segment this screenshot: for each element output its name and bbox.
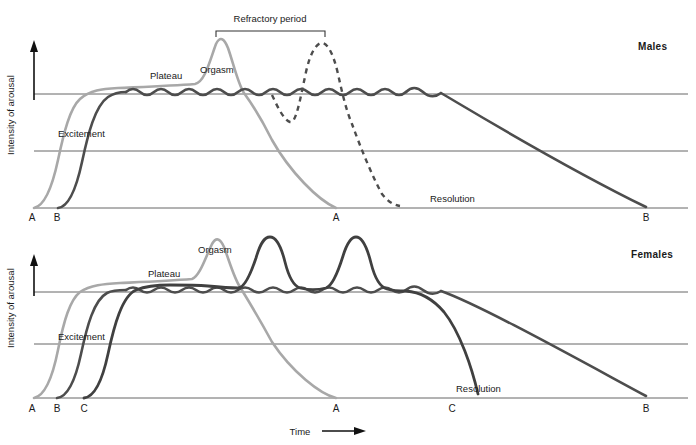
label-females-resolution: Resolution [456, 383, 501, 394]
panel-title-females: Females [631, 249, 673, 260]
panel-females: Intensity of arousal Females Plateau Org… [5, 237, 688, 437]
y-axis-title-males: Intensity of arousal [5, 75, 16, 155]
label-females-plateau: Plateau [148, 268, 180, 279]
x-tick-males-1: B [54, 212, 61, 223]
sexual-response-cycle-figure: Intensity of arousal Males Refractory pe… [0, 0, 696, 445]
label-males-excitement: Excitement [58, 128, 105, 139]
curve-females-pattern-b-resolution [406, 287, 646, 397]
label-females-orgasm: Orgasm [198, 244, 232, 255]
x-tick-females-1: B [54, 403, 61, 414]
curve-females-pattern-c-multiple-orgasms [84, 237, 478, 398]
x-tick-females-5: B [643, 403, 650, 414]
label-males-orgasm: Orgasm [200, 64, 234, 75]
x-tick-males-2: A [333, 212, 340, 223]
curve-females-pattern-a [34, 239, 336, 398]
refractory-period-label: Refractory period [234, 13, 307, 24]
x-tick-females-4: C [448, 403, 455, 414]
label-males-plateau: Plateau [150, 70, 182, 81]
y-axis-arrow-females [30, 254, 38, 296]
x-tick-females-3: A [333, 403, 340, 414]
x-tick-males-0: A [29, 212, 36, 223]
x-axis-title: Time [290, 426, 311, 437]
y-axis-title-females: Intensity of arousal [5, 268, 16, 348]
x-tick-males-3: B [643, 212, 650, 223]
curve-males-dashed-second-orgasm [272, 43, 400, 206]
x-tick-females-2: C [80, 403, 87, 414]
curve-males-pattern-b-resolution [406, 88, 646, 207]
label-males-resolution: Resolution [430, 193, 475, 204]
label-females-excitement: Excitement [58, 331, 105, 342]
panel-males: Intensity of arousal Males Refractory pe… [5, 13, 688, 223]
refractory-period-bracket [216, 31, 325, 37]
panel-title-males: Males [638, 41, 667, 52]
y-axis-arrow-males [30, 40, 38, 100]
x-tick-females-0: A [29, 403, 36, 414]
curve-males-pattern-a [34, 39, 336, 208]
curve-males-pattern-b-rise [58, 92, 126, 208]
x-axis-arrow-icon [322, 427, 366, 435]
